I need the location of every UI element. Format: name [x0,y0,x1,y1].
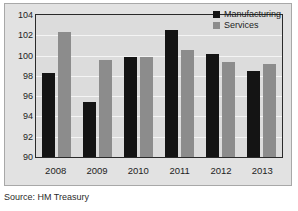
y-axis-tick-label: 92 [7,132,33,141]
bar-group [159,15,200,157]
legend-swatch-services-icon [213,22,220,29]
x-axis-tick-label: 2009 [76,163,117,179]
y-axis-tick-label: 100 [7,51,33,60]
bar-manufacturing-2009 [83,102,96,157]
legend-entry-services: Services [213,21,281,30]
bar-services-2012 [222,62,235,157]
bar-services-2013 [263,64,276,157]
y-axis-tick-label: 94 [7,112,33,121]
y-axis-tick-label: 96 [7,92,33,101]
y-axis-tick-label: 102 [7,31,33,40]
x-axis-tick-label: 2008 [35,163,76,179]
source-caption: Source: HM Treasury [4,192,89,203]
bar-group [77,15,118,157]
bar-group [36,15,77,157]
bar-manufacturing-2008 [42,73,55,157]
bar-services-2010 [140,57,153,157]
x-axis-tick-label: 2010 [118,163,159,179]
legend-entry-manufacturing: Manufacturing [213,10,281,19]
bar-services-2008 [58,32,71,157]
bars-layer [36,15,282,157]
bar-services-2011 [181,50,194,158]
chart-figure: 1041021009896949290 20082009201020112012… [0,0,298,211]
bar-manufacturing-2013 [247,71,260,157]
x-axis-tick-label: 2013 [242,163,283,179]
legend-label-manufacturing: Manufacturing [224,10,281,19]
legend-label-services: Services [224,21,259,30]
bar-group [241,15,282,157]
chart-panel: 1041021009896949290 20082009201020112012… [4,3,292,186]
legend-swatch-manufacturing-icon [213,11,220,18]
y-axis-tick-label: 98 [7,71,33,80]
chart-legend: Manufacturing Services [213,10,281,30]
x-axis-tick-label: 2012 [200,163,241,179]
plot-area [35,14,283,158]
bar-group [200,15,241,157]
bar-manufacturing-2011 [165,30,178,157]
bar-services-2009 [99,60,112,157]
bar-group [118,15,159,157]
bar-manufacturing-2012 [206,54,219,157]
x-axis-tick-label: 2011 [159,163,200,179]
y-axis-tick-label: 104 [7,11,33,20]
x-axis: 200820092010201120122013 [35,163,283,179]
y-axis: 1041021009896949290 [5,4,33,185]
bar-manufacturing-2010 [124,57,137,157]
y-axis-tick-label: 90 [7,153,33,162]
